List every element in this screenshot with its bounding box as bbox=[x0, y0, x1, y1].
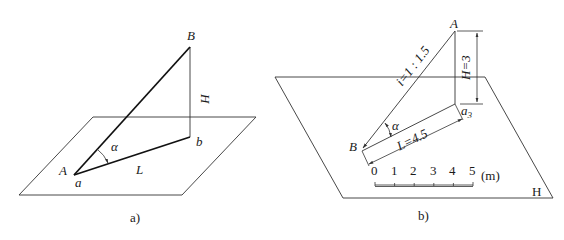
label-a3: a3 bbox=[461, 103, 473, 120]
label-alpha-b: α bbox=[392, 118, 400, 133]
figure-a: B H b α A a L a) bbox=[19, 28, 256, 225]
scale-bar: 0 1 2 3 4 5 (m) bbox=[371, 163, 500, 187]
label-B: B bbox=[187, 28, 195, 43]
scale-tick-3: 3 bbox=[430, 163, 437, 178]
angle-arc-alpha bbox=[97, 149, 108, 163]
label-A: A bbox=[58, 163, 67, 178]
caption-b: b) bbox=[418, 208, 429, 223]
scale-tick-5: 5 bbox=[469, 163, 476, 178]
label-A-b: A bbox=[449, 16, 458, 31]
label-L-dim: L=4.5 bbox=[393, 125, 430, 153]
label-a3-sub: 3 bbox=[467, 110, 473, 120]
plane-outline-a bbox=[19, 117, 256, 195]
label-L: L bbox=[135, 162, 143, 177]
label-H-dim: H=3 bbox=[458, 55, 473, 81]
scale-tick-2: 2 bbox=[410, 163, 417, 178]
label-B-b: B bbox=[349, 139, 357, 154]
label-slope: i=1 : 1.5 bbox=[393, 43, 433, 89]
scale-tick-0: 0 bbox=[371, 163, 378, 178]
angle-arc-alpha-b bbox=[385, 123, 391, 137]
label-alpha: α bbox=[111, 139, 119, 154]
label-H: H bbox=[198, 93, 213, 104]
dim-ext-B bbox=[362, 151, 369, 166]
diagram-canvas: B H b α A a L a) A H=3 a3 i= bbox=[0, 0, 564, 240]
scale-unit: (m) bbox=[481, 168, 500, 183]
scale-tick-4: 4 bbox=[449, 163, 456, 178]
label-a: a bbox=[75, 175, 82, 190]
line-AB-slope bbox=[363, 31, 455, 148]
scale-tick-1: 1 bbox=[391, 163, 398, 178]
label-b: b bbox=[196, 134, 203, 149]
label-plane-H: H bbox=[532, 184, 541, 199]
caption-a: a) bbox=[130, 210, 140, 225]
figure-b: A H=3 a3 i=1 : 1.5 α L=4.5 B H 0 1 2 3 4… bbox=[275, 16, 553, 223]
